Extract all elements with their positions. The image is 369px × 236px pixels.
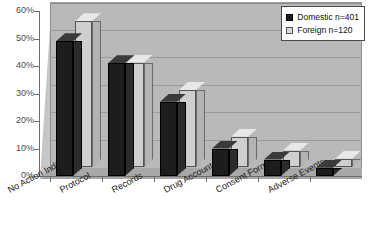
x-axis-tick: [50, 177, 51, 182]
legend-item: Foreign n=120: [286, 24, 359, 36]
plot-left-edge: [50, 3, 51, 169]
bar-domestic: [212, 149, 229, 177]
bar-front-face: [316, 168, 333, 176]
bar-front-face: [56, 41, 73, 176]
bar-domestic: [108, 63, 125, 176]
x-axis-tick: [102, 177, 103, 182]
gray-square-swatch-icon: [286, 27, 293, 34]
bar-domestic: [316, 168, 333, 176]
legend-item-label: Foreign n=120: [297, 26, 352, 35]
bar-side-face: [144, 63, 153, 168]
y-axis-tick: [34, 11, 39, 12]
bar-front-face: [108, 63, 125, 176]
legend-item: Domestic n=401: [286, 11, 359, 23]
y-axis-tick-label: 30%: [0, 89, 34, 98]
bar-side-face: [73, 41, 82, 176]
y-axis-line: [39, 11, 40, 177]
y-axis-tick-label: 20%: [0, 116, 34, 125]
x-axis-tick: [258, 177, 259, 182]
bar-chart: 0%10%20%30%40%50%60% No Action Indicated…: [0, 0, 369, 236]
legend: Domestic n=401 Foreign n=120: [281, 6, 365, 41]
y-axis-tick-label: 10%: [0, 144, 34, 153]
gridline: [50, 2, 362, 3]
y-axis-tick: [34, 66, 39, 67]
y-axis-tick-label: 60%: [0, 6, 34, 15]
bar-front-face: [160, 102, 177, 176]
bar-domestic: [264, 160, 281, 177]
bar-front-face: [264, 160, 281, 177]
x-axis-tick: [310, 177, 311, 182]
bar-side-face: [125, 63, 134, 176]
legend-item-label: Domestic n=401: [297, 13, 359, 22]
y-axis-tick: [34, 121, 39, 122]
bar-side-face: [196, 90, 205, 167]
x-axis-tick: [206, 177, 207, 182]
bar-side-face: [92, 21, 101, 167]
bar-domestic: [160, 102, 177, 176]
y-axis-tick: [34, 94, 39, 95]
y-axis-tick: [34, 149, 39, 150]
y-axis-tick-label: 40%: [0, 61, 34, 70]
bar-domestic: [56, 41, 73, 176]
bar-front-face: [212, 149, 229, 177]
bar-side-face: [177, 102, 186, 176]
y-axis-tick-label: 50%: [0, 34, 34, 43]
x-axis-tick: [154, 177, 155, 182]
black-square-swatch-icon: [286, 14, 293, 21]
y-axis-tick: [34, 39, 39, 40]
